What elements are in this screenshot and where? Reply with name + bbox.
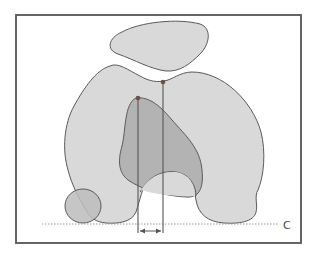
marker-point-1: [136, 96, 141, 101]
small-circle: [65, 189, 101, 223]
baseline-label: C: [283, 219, 291, 232]
marker-point-2: [161, 80, 166, 85]
diagram-canvas: C: [0, 0, 313, 255]
